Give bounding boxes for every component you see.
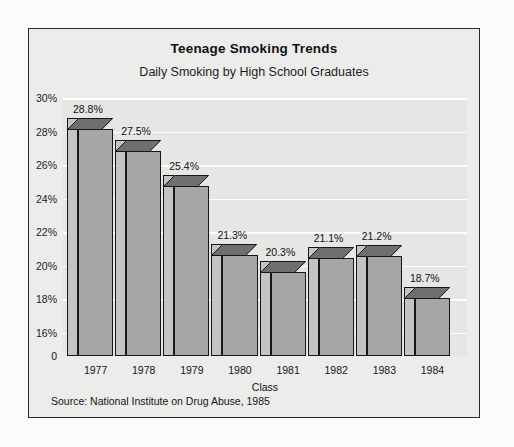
x-axis-tick-label: 1983 — [373, 364, 396, 376]
bar-front-face — [126, 151, 161, 356]
bar-top-outline — [163, 175, 209, 187]
chart-frame: Teenage Smoking Trends Daily Smoking by … — [28, 28, 480, 418]
x-axis-tick-label: 1982 — [325, 364, 348, 376]
plot-top-edge — [63, 98, 467, 100]
bar-front-face — [78, 129, 113, 356]
bar-front-face — [222, 255, 257, 356]
bar — [67, 118, 113, 356]
y-axis-tick-label: 28% — [36, 126, 57, 138]
bar-top-outline — [115, 140, 161, 152]
bar — [356, 245, 402, 356]
x-axis-tick-label: 1981 — [276, 364, 299, 376]
y-axis-tick-label: 26% — [36, 159, 57, 171]
bar-side-face — [115, 140, 126, 356]
bar — [115, 140, 161, 356]
bar-side-face — [163, 175, 174, 356]
bar-value-label: 28.8% — [73, 103, 103, 115]
bar-value-label: 21.2% — [362, 230, 392, 242]
scan-background: Teenage Smoking Trends Daily Smoking by … — [0, 0, 514, 447]
bar-top-outline — [404, 287, 450, 299]
bar-value-label: 25.4% — [169, 160, 199, 172]
chart-subtitle: Daily Smoking by High School Graduates — [29, 65, 479, 79]
y-axis-tick-label: 18% — [36, 293, 57, 305]
bar-side-face — [260, 261, 271, 356]
bar-value-label: 18.7% — [410, 272, 440, 284]
bar-side-face — [67, 118, 78, 356]
x-axis-tick-label: 1980 — [228, 364, 251, 376]
bar-value-label: 21.1% — [314, 232, 344, 244]
bar — [163, 175, 209, 356]
bar-top-outline — [211, 244, 257, 256]
chart-title: Teenage Smoking Trends — [29, 41, 479, 56]
y-axis-tick-label: 20% — [36, 260, 57, 272]
bar-top-outline — [260, 261, 306, 273]
y-axis-tick-label: 24% — [36, 193, 57, 205]
bar-side-face — [356, 245, 367, 356]
source-note: Source: National Institute on Drug Abuse… — [51, 395, 270, 407]
y-axis-tick-label: 30% — [36, 92, 57, 104]
bar-value-label: 21.3% — [217, 229, 247, 241]
bar-value-label: 27.5% — [121, 125, 151, 137]
bar-front-face — [319, 258, 354, 356]
y-axis-tick-label: 16% — [36, 327, 57, 339]
bar-front-face — [415, 298, 450, 356]
bar — [211, 244, 257, 356]
bar-front-face — [271, 272, 306, 356]
bar — [404, 287, 450, 356]
bar-side-face — [211, 244, 222, 356]
bar-top-outline — [356, 245, 402, 257]
bar-top-outline — [67, 118, 113, 130]
x-axis-tick-label: 1979 — [180, 364, 203, 376]
x-axis-tick-label: 1977 — [84, 364, 107, 376]
bar-front-face — [174, 186, 209, 356]
y-axis-tick-label: 22% — [36, 226, 57, 238]
x-axis-label: Class — [63, 381, 467, 393]
bar-value-label: 20.3% — [266, 246, 296, 258]
bar — [308, 247, 354, 356]
bar — [260, 261, 306, 356]
bar-side-face — [308, 247, 319, 356]
x-axis-tick-label: 1978 — [132, 364, 155, 376]
y-axis-tick-label: 0 — [51, 350, 57, 362]
x-axis-tick-label: 1984 — [421, 364, 444, 376]
plot-area: 30%28%26%24%22%20%18%16%0 28.8%27.5%25.4… — [63, 98, 467, 356]
bar-top-outline — [308, 247, 354, 259]
bar-front-face — [367, 256, 402, 356]
